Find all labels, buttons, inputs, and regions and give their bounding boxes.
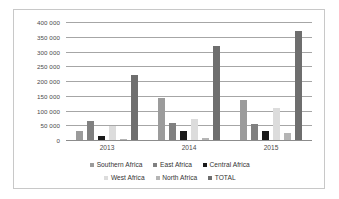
legend-label: North Africa [162, 174, 197, 181]
bar-west-africa-2013[interactable] [109, 126, 116, 140]
legend-swatch-icon [208, 176, 212, 180]
y-tick-label-50000: 50 000 [40, 122, 60, 129]
x-tick-label-2014: 2014 [182, 144, 197, 151]
legend-label: East Africa [160, 161, 192, 168]
x-tick-label-2015: 2015 [264, 144, 279, 151]
x-tick-label-2013: 2013 [100, 144, 115, 151]
bar-total-2013[interactable] [131, 75, 138, 140]
bar-west-africa-2014[interactable] [191, 119, 198, 140]
legend-item-east-africa[interactable]: East Africa [153, 161, 192, 168]
bar-west-africa-2015[interactable] [273, 108, 280, 140]
bar-central-africa-2014[interactable] [180, 131, 187, 140]
chart-figure: 050 000100 000150 000200 000250 000300 0… [13, 9, 325, 189]
legend-swatch-icon [156, 176, 160, 180]
legend-label: Southern Africa [97, 161, 143, 168]
legend-swatch-icon [90, 163, 94, 167]
bar-north-africa-2014[interactable] [202, 138, 209, 140]
legend-swatch-icon [203, 163, 207, 167]
bar-group-2014 [148, 22, 230, 140]
x-axis-tick-labels: 201320142015 [66, 144, 312, 156]
legend-row-1: Southern AfricaEast AfricaCentral Africa [14, 158, 326, 171]
y-tick-label-150000: 150 000 [37, 92, 60, 99]
bar-group-2015 [230, 22, 312, 140]
bar-north-africa-2015[interactable] [284, 133, 291, 140]
legend-item-north-africa[interactable]: North Africa [156, 174, 198, 181]
bar-group-2013 [66, 22, 148, 140]
bar-central-africa-2015[interactable] [262, 131, 269, 140]
bar-southern-africa-2015[interactable] [240, 100, 247, 140]
bar-total-2014[interactable] [213, 46, 220, 140]
bar-southern-africa-2014[interactable] [158, 98, 165, 140]
legend-label: Central Africa [210, 161, 250, 168]
y-tick-label-200000: 200 000 [37, 78, 60, 85]
bar-east-africa-2013[interactable] [87, 121, 94, 140]
legend-item-southern-africa[interactable]: Southern Africa [90, 161, 142, 168]
plot-area [66, 22, 312, 140]
bar-southern-africa-2013[interactable] [76, 131, 83, 140]
legend-item-west-africa[interactable]: West Africa [104, 174, 144, 181]
bar-central-africa-2013[interactable] [98, 136, 105, 140]
legend-item-central-africa[interactable]: Central Africa [203, 161, 250, 168]
bar-north-africa-2013[interactable] [120, 139, 127, 140]
legend-item-total[interactable]: TOTAL [208, 174, 235, 181]
y-tick-label-0: 0 [56, 137, 60, 144]
bar-total-2015[interactable] [295, 31, 302, 140]
y-tick-label-300000: 300 000 [37, 48, 60, 55]
bar-east-africa-2014[interactable] [169, 123, 176, 140]
legend-swatch-icon [104, 176, 108, 180]
bars-layer [66, 22, 312, 140]
legend-row-2: West AfricaNorth AfricaTOTAL [14, 171, 326, 184]
y-tick-label-250000: 250 000 [37, 63, 60, 70]
legend-swatch-icon [153, 163, 157, 167]
y-tick-label-350000: 350 000 [37, 33, 60, 40]
y-axis-tick-labels: 050 000100 000150 000200 000250 000300 0… [14, 22, 64, 140]
chart-legend: Southern AfricaEast AfricaCentral Africa… [14, 158, 326, 184]
gridline-0 [66, 140, 312, 141]
legend-label: West Africa [111, 174, 145, 181]
y-tick-label-100000: 100 000 [37, 107, 60, 114]
legend-label: TOTAL [215, 174, 236, 181]
bar-east-africa-2015[interactable] [251, 124, 258, 140]
y-tick-label-400000: 400 000 [37, 19, 60, 26]
